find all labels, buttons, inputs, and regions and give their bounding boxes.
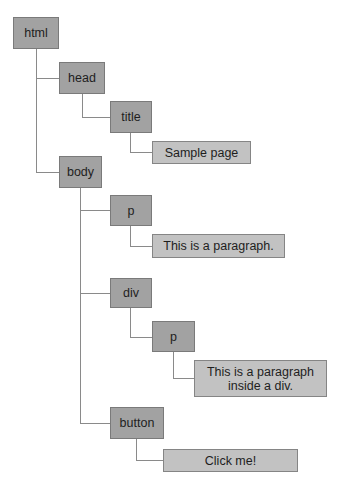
node-inner-p-label: p	[170, 330, 177, 344]
node-button-text: Click me!	[163, 449, 298, 472]
connector-head-trunk	[82, 94, 83, 117]
connector-body-p	[80, 210, 110, 211]
node-button-label: button	[120, 416, 155, 430]
node-p: p	[110, 195, 152, 226]
connector-html-head	[36, 78, 59, 79]
connector-body-trunk	[80, 188, 81, 423]
node-p-text: This is a paragraph.	[152, 234, 285, 258]
connector-title-text	[130, 152, 152, 153]
connector-div-p	[130, 337, 152, 338]
node-title: title	[110, 101, 152, 133]
node-inner-p: p	[152, 321, 195, 352]
node-p-text-label: This is a paragraph.	[163, 239, 273, 253]
node-div-label: div	[123, 286, 139, 300]
node-div: div	[110, 278, 152, 308]
connector-body-button	[80, 423, 110, 424]
node-button-text-label: Click me!	[205, 454, 256, 468]
connector-p-trunk	[130, 226, 131, 246]
node-html-label: html	[24, 26, 48, 40]
connector-inner-p-text	[173, 378, 194, 379]
node-html: html	[13, 17, 59, 49]
connector-title-trunk	[130, 133, 131, 152]
node-button: button	[110, 407, 164, 439]
connector-head-title	[82, 117, 110, 118]
connector-div-trunk	[130, 308, 131, 337]
connector-button-trunk	[136, 439, 137, 460]
connector-p-text	[130, 246, 152, 247]
node-inner-p-text: This is a paragraph inside a div.	[194, 360, 327, 397]
connector-body-div	[80, 293, 110, 294]
connector-html-trunk	[36, 49, 37, 172]
node-title-text: Sample page	[152, 141, 251, 164]
node-title-label: title	[121, 110, 140, 124]
node-body-label: body	[67, 165, 94, 179]
connector-inner-p-trunk	[173, 352, 174, 378]
dom-tree-diagram: html head title Sample page body p This …	[0, 0, 342, 489]
node-body: body	[59, 156, 102, 188]
node-head-label: head	[68, 71, 96, 85]
node-inner-p-text-label: This is a paragraph inside a div.	[201, 365, 320, 393]
connector-html-body	[36, 172, 59, 173]
connector-button-text	[136, 460, 163, 461]
node-title-text-label: Sample page	[165, 146, 239, 160]
node-head: head	[59, 62, 105, 94]
node-p-label: p	[128, 204, 135, 218]
